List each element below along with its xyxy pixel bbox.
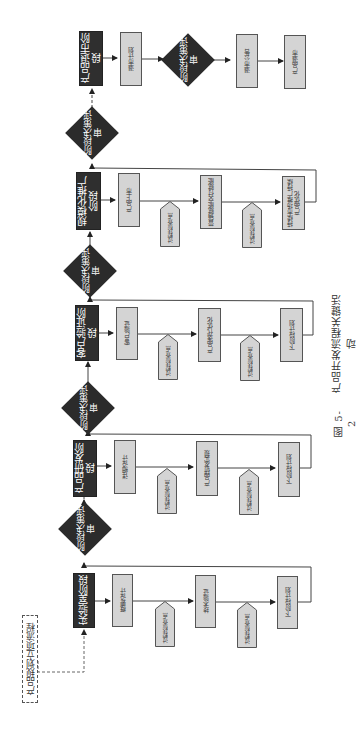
task-box: 技术验证 (195, 575, 216, 628)
task-box: 产品退市 (284, 35, 306, 89)
checkpoint-label: 过程检查点 (240, 343, 260, 381)
decision-review-diamond: 阶段决策评审 (65, 385, 111, 431)
stage-customer-validation: 客户验证阶段 (75, 305, 99, 361)
decision-label: 阶段决策评审 (65, 385, 111, 431)
task-label: 客户验证 (124, 322, 131, 346)
task-label: 产品上市 (126, 188, 133, 212)
task-box: 持续市场推广持续产品优化 (282, 176, 305, 230)
stage-label: 实验室阶段 (79, 576, 90, 626)
checkpoint-marker: 过程检查点 (158, 334, 178, 380)
task-box: 产品上市 (118, 173, 140, 227)
checkpoint-label: 过程检查点 (158, 342, 178, 380)
task-box: 退市计划 (120, 32, 142, 86)
stage-label: 产品研发阶段 (74, 441, 96, 496)
task-box: 详细设计 (114, 440, 136, 494)
task-box: 下阶段计划 (280, 308, 303, 362)
task-label: 概要设计 (119, 589, 126, 613)
entry-process-label: 产品规划立项流程 (24, 623, 37, 695)
checkpoint-label: 过程检查点 (155, 609, 175, 647)
task-box: 下阶段计划 (277, 576, 298, 629)
stage-label: 客户验证阶段 (76, 306, 98, 360)
task-box: 客户验证 (116, 307, 138, 360)
task-label: 持续市场推广持续产品优化 (287, 177, 301, 229)
checkpoint-marker: 过程检查点 (155, 601, 175, 647)
checkpoint-label: 过程检查点 (242, 210, 262, 248)
task-label: 营销赋能交付赋能 (208, 178, 215, 226)
decision-label: 阶段决策评审 (69, 110, 115, 156)
connector-lines (0, 0, 360, 749)
task-box: 产品研发实现 (196, 441, 218, 496)
checkpoint-label: 过程检查点 (239, 477, 259, 515)
decision-label: 阶段决策评审 (165, 37, 211, 83)
task-label: 下阶段计划 (286, 455, 293, 485)
checkpoint-label: 过程检查点 (160, 209, 180, 247)
decision-review-diamond: 阶段决策评审 (165, 37, 211, 83)
task-label: 下阶段计划 (288, 320, 295, 350)
figure-number: 图 5-2 (331, 407, 357, 440)
stage-label: 规模化推广阶段 (78, 173, 100, 229)
checkpoint-marker: 过程检查点 (237, 602, 257, 648)
checkpoint-marker: 过程检查点 (242, 202, 262, 248)
checkpoint-marker: 过程检查点 (240, 335, 260, 381)
entry-process-box: 产品规划立项流程 (22, 615, 38, 703)
stage-scale-promotion: 规模化推广阶段 (76, 172, 101, 230)
task-label: 下阶段计划 (284, 588, 291, 618)
stage-rd: 产品研发阶段 (73, 440, 97, 497)
figure-caption: 图 5-2 产品开发流程关键活动 (336, 290, 352, 440)
task-box: 产品迭代优化 (198, 308, 221, 362)
checkpoint-marker: 过程检查点 (239, 469, 259, 515)
stage-lab: 实验室阶段 (73, 573, 95, 628)
decision-review-diamond: 阶段决策评审 (62, 506, 108, 552)
checkpoint-label: 过程检查点 (157, 476, 177, 514)
stage-retirement: 产品退市阶段 (79, 31, 103, 86)
checkpoint-label: 过程检查点 (237, 610, 257, 648)
task-label: 技术验证 (202, 590, 209, 614)
figure-title: 产品开发流程关键活动 (329, 290, 359, 397)
decision-label: 阶段决策评审 (62, 506, 108, 552)
decision-label: 阶段决策评审 (67, 248, 113, 294)
stage-label: 产品退市阶段 (80, 32, 102, 85)
task-label: 详细设计 (122, 455, 129, 479)
task-box: 概要设计 (112, 574, 133, 627)
decision-review-diamond: 阶段决策评审 (67, 248, 113, 294)
task-box: 营销赋能交付赋能 (200, 175, 222, 229)
task-label: 产品退市 (292, 50, 299, 74)
task-label: 退市计划 (128, 47, 135, 71)
task-label: 产品迭代优化 (206, 317, 213, 353)
task-label: 退市公告 (244, 49, 251, 73)
task-box: 下阶段计划 (278, 442, 300, 497)
checkpoint-marker: 过程检查点 (157, 468, 177, 514)
task-label: 产品研发实现 (204, 451, 211, 487)
task-box: 退市公告 (236, 34, 258, 88)
decision-review-diamond: 阶段决策评审 (69, 110, 115, 156)
checkpoint-marker: 过程检查点 (160, 201, 180, 247)
